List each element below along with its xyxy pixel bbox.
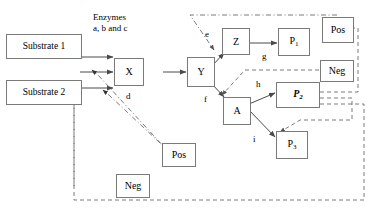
node-x-label: X bbox=[125, 67, 132, 77]
node-x[interactable]: X bbox=[114, 58, 144, 86]
node-substrate-1-label: Substrate 1 bbox=[23, 42, 65, 52]
edge-label-h: h bbox=[256, 80, 261, 89]
node-z-label: Z bbox=[233, 37, 239, 47]
node-a-label: A bbox=[233, 106, 240, 116]
node-p1-sub: 1 bbox=[295, 40, 299, 48]
node-a[interactable]: A bbox=[223, 97, 251, 125]
regulator-neg-right[interactable]: Neg bbox=[320, 60, 354, 82]
regulator-pos-bottom-label: Pos bbox=[172, 150, 186, 160]
edge-label-f: f bbox=[204, 95, 207, 104]
node-y[interactable]: Y bbox=[187, 57, 215, 87]
enzymes-annotation: Enzymes a, b and c bbox=[93, 12, 127, 33]
node-p3[interactable]: P3 bbox=[276, 131, 308, 159]
regulator-neg-right-label: Neg bbox=[329, 66, 346, 76]
edge-label-e: e bbox=[205, 30, 209, 39]
regulator-pos-top[interactable]: Pos bbox=[322, 17, 354, 43]
edge-label-i: i bbox=[253, 135, 256, 144]
node-substrate-2-label: Substrate 2 bbox=[23, 88, 65, 98]
node-y-label: Y bbox=[197, 67, 204, 77]
diagram-canvas: Substrate 1 Substrate 2 Enzymes a, b and… bbox=[0, 0, 368, 210]
node-substrate-2[interactable]: Substrate 2 bbox=[6, 80, 82, 105]
node-p3-sub: 3 bbox=[293, 143, 297, 151]
edge-label-d: d bbox=[126, 92, 131, 101]
regulator-pos-bottom[interactable]: Pos bbox=[162, 143, 196, 167]
regulator-neg-bottom[interactable]: Neg bbox=[116, 174, 150, 198]
edge-label-g: g bbox=[262, 52, 267, 61]
node-p1[interactable]: P1 bbox=[278, 28, 310, 56]
node-p2-sub: 2 bbox=[299, 93, 303, 101]
regulator-pos-top-label: Pos bbox=[331, 25, 345, 35]
node-p2[interactable]: P2 bbox=[276, 82, 320, 108]
regulator-neg-bottom-label: Neg bbox=[125, 181, 142, 191]
node-z[interactable]: Z bbox=[222, 28, 250, 55]
node-substrate-1[interactable]: Substrate 1 bbox=[6, 34, 82, 59]
